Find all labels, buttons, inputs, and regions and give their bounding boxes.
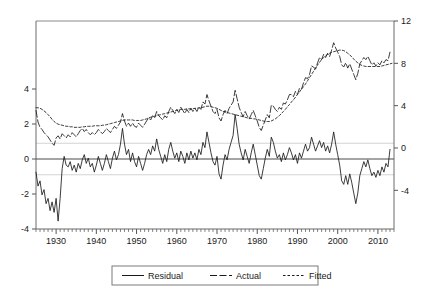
y-tick-label-right: 0 <box>401 143 406 153</box>
x-tick-label: 1990 <box>287 236 307 246</box>
chart-legend: ResidualActualFitted <box>112 266 332 285</box>
y-tick-label-right: 12 <box>401 16 411 26</box>
y-tick-label-left: 0 <box>24 154 29 164</box>
y-tick-label-left: 4 <box>24 84 29 94</box>
x-tick-label: 1970 <box>207 236 227 246</box>
legend-label-actual: Actual <box>236 271 261 281</box>
y-tick-label-right: 4 <box>401 101 406 111</box>
x-tick-label: 1930 <box>46 236 66 246</box>
residual-actual-fitted-chart: 193019401950196019701980199020002010 -4-… <box>0 0 433 297</box>
y-tick-label-right: -4 <box>401 186 409 196</box>
y-tick-label-left: -4 <box>21 224 29 234</box>
y-tick-label-left: 2 <box>24 119 29 129</box>
x-tick-label: 2010 <box>368 236 388 246</box>
x-tick-label: 1980 <box>247 236 267 246</box>
chart-background <box>0 0 433 297</box>
legend-label-fitted: Fitted <box>309 271 332 281</box>
x-tick-label: 2000 <box>328 236 348 246</box>
x-axis-labels: 193019401950196019701980199020002010 <box>46 236 388 246</box>
chart-container: 193019401950196019701980199020002010 -4-… <box>0 0 433 297</box>
y-tick-label-left: -2 <box>21 189 29 199</box>
x-tick-label: 1960 <box>167 236 187 246</box>
legend-label-residual: Residual <box>148 271 183 281</box>
y-tick-label-right: 8 <box>401 59 406 69</box>
x-tick-label: 1940 <box>86 236 106 246</box>
x-tick-label: 1950 <box>127 236 147 246</box>
